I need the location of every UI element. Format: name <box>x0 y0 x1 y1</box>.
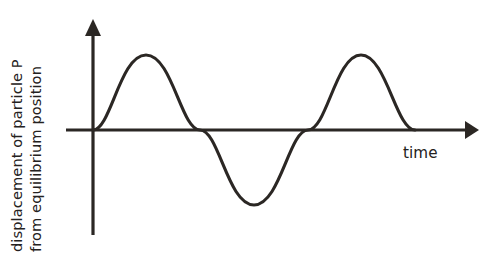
y-axis-arrow-icon <box>85 19 101 36</box>
x-axis-label: time <box>403 144 438 163</box>
wave-graph <box>0 0 494 260</box>
diagram-canvas: displacement of particle P from equilibr… <box>0 0 494 260</box>
x-axis-arrow-icon <box>465 121 479 139</box>
